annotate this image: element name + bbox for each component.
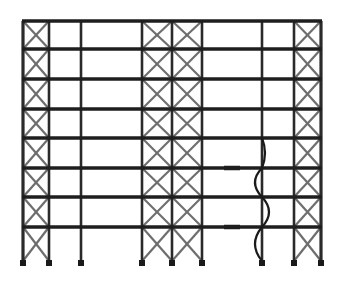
base-support [199,260,205,266]
base-support [78,260,84,266]
base-support [291,260,297,266]
base-support [318,260,324,266]
base-support [169,260,175,266]
base-support [46,260,52,266]
base-support [20,260,26,266]
frame-diagram [0,0,339,285]
frame-svg [0,0,339,285]
base-support [259,260,265,266]
base-support [139,260,145,266]
